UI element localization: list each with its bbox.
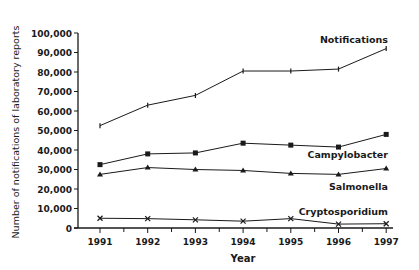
y-tick-label: 80,000 (37, 68, 72, 78)
series-label: Salmonella (329, 181, 388, 192)
y-tick-label: 10,000 (37, 204, 72, 214)
series-group: NotificationsCampylobacterSalmonellaCryp… (97, 34, 389, 227)
line-chart: 010,00020,00030,00040,00050,00060,00070,… (0, 0, 419, 270)
y-tick-label: 30,000 (37, 165, 72, 175)
x-tick-label: 1997 (374, 237, 399, 247)
x-tick-label: 1995 (278, 237, 303, 247)
x-tick-label: 1994 (231, 237, 256, 247)
x-tick-label: 1993 (183, 237, 208, 247)
series-label: Cryptosporidium (299, 206, 388, 217)
x-tick-label: 1996 (326, 237, 351, 247)
y-tick-label: 50,000 (37, 126, 72, 136)
series-label: Campylobacter (307, 149, 388, 160)
x-tick-label: 1991 (87, 237, 112, 247)
x-tick-label: 1992 (135, 237, 160, 247)
x-axis-label: Year (230, 253, 256, 264)
series-notifications: Notifications (100, 34, 388, 128)
series-label: Notifications (320, 34, 388, 45)
y-tick-label: 90,000 (37, 48, 72, 58)
series-campylobacter: Campylobacter (98, 132, 389, 167)
y-tick-label: 0 (66, 224, 72, 234)
series-cryptosporidium: Cryptosporidium (98, 206, 389, 227)
y-tick-label: 20,000 (37, 185, 72, 195)
y-tick-label: 60,000 (37, 107, 72, 117)
y-tick-label: 40,000 (37, 146, 72, 156)
y-tick-label: 100,000 (31, 29, 72, 39)
y-tick-label: 70,000 (37, 87, 72, 97)
y-axis-label: Number of notifications of laboratory re… (10, 25, 21, 238)
series-salmonella: Salmonella (97, 165, 389, 192)
